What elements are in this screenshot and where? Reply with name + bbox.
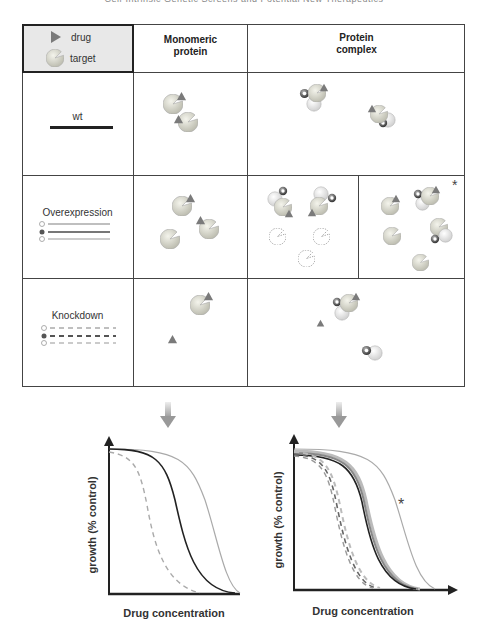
- x-axis-label: Drug concentration: [123, 607, 225, 619]
- complex-subunit-icon: [362, 346, 382, 360]
- target-drug-bound-icon: [163, 92, 186, 114]
- complex-free-icon: [430, 218, 452, 243]
- down-arrow-icon: [160, 402, 176, 430]
- curve-overexpression: [109, 449, 240, 593]
- complex-drug-bound-icon: [268, 187, 293, 218]
- complex-drug-bound-icon: [333, 293, 360, 320]
- curve-knockdown-target: [294, 456, 373, 588]
- curve-overexpression-target: [294, 449, 435, 589]
- target-free-dashed-icon: [269, 228, 286, 245]
- complex-drug-bound-icon: [308, 187, 336, 217]
- curve-knockdown: [109, 452, 200, 593]
- molecule-illustrations: *: [0, 0, 488, 390]
- chart-asterisk-annotation: *: [398, 496, 404, 513]
- drug-free-icon: [168, 335, 177, 343]
- target-drug-bound-icon: [381, 195, 400, 215]
- y-axis-label: growth (% control): [272, 471, 284, 568]
- drug-free-icon: [317, 320, 325, 327]
- y-axis-label: growth (% control): [86, 476, 98, 573]
- target-free-dashed-icon: [298, 250, 315, 267]
- target-free-icon: [412, 254, 429, 271]
- target-drug-bound-icon: [174, 112, 198, 132]
- down-arrow-icon: [331, 402, 347, 430]
- curve-wt: [109, 449, 235, 593]
- target-free-icon: [383, 227, 401, 245]
- target-free-icon: [160, 229, 180, 249]
- target-drug-bound-icon: [190, 292, 213, 315]
- complex-drug-bound-icon: [368, 105, 395, 127]
- asterisk-annotation: *: [452, 177, 458, 193]
- complex-drug-bound-icon: [300, 84, 328, 111]
- target-free-dashed-icon: [313, 228, 330, 245]
- dose-response-chart-monomeric: growth (% control) Drug concentration: [40, 430, 250, 629]
- dose-response-chart-complex: * growth (% control) Drug concentration: [270, 430, 480, 629]
- complex-drug-bound-icon: [414, 186, 440, 210]
- target-drug-bound-icon: [196, 216, 219, 239]
- target-drug-bound-icon: [172, 194, 195, 216]
- x-axis-label: Drug concentration: [312, 605, 414, 617]
- curve-knockdown-subunit: [294, 454, 376, 588]
